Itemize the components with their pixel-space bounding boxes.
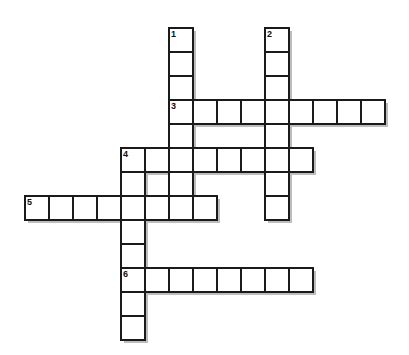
crossword-cell[interactable] [168, 171, 194, 197]
crossword-cell[interactable] [192, 99, 218, 125]
crossword-cell[interactable] [168, 147, 194, 173]
crossword-cell[interactable]: 4 [120, 147, 146, 173]
crossword-cell[interactable] [120, 315, 146, 341]
crossword-cell[interactable] [264, 75, 290, 101]
crossword-cell[interactable] [168, 267, 194, 293]
crossword-cell[interactable] [168, 51, 194, 77]
clue-number: 3 [171, 101, 176, 111]
crossword-grid: 132465 [0, 0, 409, 355]
crossword-cell[interactable] [240, 147, 266, 173]
crossword-cell[interactable] [216, 267, 242, 293]
crossword-cell[interactable] [216, 99, 242, 125]
crossword-cell[interactable] [288, 147, 314, 173]
crossword-cell[interactable] [144, 267, 170, 293]
crossword-cell[interactable] [72, 195, 98, 221]
clue-number: 4 [123, 149, 128, 159]
clue-number: 2 [267, 29, 272, 39]
crossword-cell[interactable] [264, 123, 290, 149]
crossword-cell[interactable]: 2 [264, 27, 290, 53]
crossword-cell[interactable] [240, 267, 266, 293]
crossword-cell[interactable] [264, 171, 290, 197]
crossword-cell[interactable] [120, 219, 146, 245]
crossword-cell[interactable] [168, 123, 194, 149]
crossword-cell[interactable] [144, 147, 170, 173]
crossword-cell[interactable] [168, 75, 194, 101]
crossword-cell[interactable]: 5 [24, 195, 50, 221]
crossword-cell[interactable] [264, 267, 290, 293]
crossword-cell[interactable] [264, 51, 290, 77]
crossword-cell[interactable] [288, 267, 314, 293]
crossword-cell[interactable]: 6 [120, 267, 146, 293]
crossword-cell[interactable] [192, 267, 218, 293]
crossword-cell[interactable] [120, 291, 146, 317]
clue-number: 6 [123, 269, 128, 279]
crossword-cell[interactable] [264, 147, 290, 173]
crossword-cell[interactable] [240, 99, 266, 125]
crossword-cell[interactable] [192, 147, 218, 173]
crossword-cell[interactable] [192, 195, 218, 221]
crossword-cell[interactable]: 1 [168, 27, 194, 53]
crossword-cell[interactable] [264, 99, 290, 125]
clue-number: 5 [27, 197, 32, 207]
crossword-cell[interactable] [120, 243, 146, 269]
crossword-cell[interactable] [96, 195, 122, 221]
crossword-cell[interactable] [360, 99, 386, 125]
crossword-cell[interactable] [168, 195, 194, 221]
crossword-cell[interactable] [336, 99, 362, 125]
crossword-cell[interactable] [120, 171, 146, 197]
crossword-cell[interactable] [288, 99, 314, 125]
crossword-cell[interactable] [264, 195, 290, 221]
crossword-cell[interactable] [216, 147, 242, 173]
crossword-cell[interactable]: 3 [168, 99, 194, 125]
crossword-cell[interactable] [48, 195, 74, 221]
crossword-cell[interactable] [144, 195, 170, 221]
clue-number: 1 [171, 29, 176, 39]
crossword-cell[interactable] [120, 195, 146, 221]
crossword-cell[interactable] [312, 99, 338, 125]
